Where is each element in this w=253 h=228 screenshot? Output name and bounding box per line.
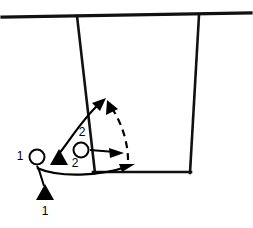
ball-marker-1[interactable]: [30, 150, 45, 165]
label-cone-2: 2: [72, 156, 79, 170]
label-ring-2: 2: [79, 125, 86, 139]
touchline: [2, 13, 251, 17]
pass-down-right-arrowhead: [106, 100, 118, 115]
cone-marker-2[interactable]: [50, 149, 68, 165]
diagram-canvas: 1 1 2 2: [0, 0, 253, 228]
cone-marker-1[interactable]: [36, 184, 54, 200]
label-cone-1: 1: [42, 204, 49, 218]
pass-short-right-arrowhead: [109, 148, 124, 158]
penalty-box-right-line: [190, 15, 199, 173]
label-ring-1: 1: [17, 149, 24, 163]
run-long-right-path: [37, 167, 126, 175]
drill-diagram: 1 1 2 2: [0, 0, 253, 228]
